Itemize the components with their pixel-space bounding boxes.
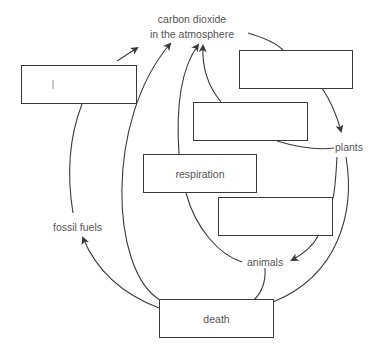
- box-left-blank[interactable]: [21, 65, 137, 104]
- carbon-cycle-diagram: carbon dioxide in the atmosphere respira…: [0, 0, 385, 358]
- box-respiration-text: respiration: [175, 168, 224, 180]
- box-middle-blank[interactable]: [193, 102, 308, 141]
- arrow-top-right-box-to-plants: [322, 88, 341, 131]
- fossil-fuels-label: fossil fuels: [53, 220, 102, 235]
- box-right-middle-blank[interactable]: [218, 197, 333, 236]
- arrow-right-box-to-animals: [292, 236, 318, 260]
- co2-label-line1: carbon dioxide: [140, 12, 244, 27]
- co2-label: carbon dioxide in the atmosphere: [140, 12, 244, 42]
- animals-label: animals: [247, 255, 283, 270]
- plants-label: plants: [335, 140, 363, 155]
- arrow-death-to-fossil-fuels: [83, 238, 159, 308]
- line-animals-to-death: [254, 268, 265, 300]
- co2-label-line2: in the atmosphere: [140, 27, 244, 42]
- box-respiration: respiration: [143, 154, 257, 193]
- faint-pencil-mark: [52, 80, 54, 89]
- box-death: death: [159, 299, 274, 338]
- arrow-left-box-to-co2: [117, 48, 137, 61]
- box-death-text: death: [203, 313, 229, 325]
- line-middle-box-to-plants: [277, 141, 334, 149]
- box-top-right-blank[interactable]: [239, 50, 353, 89]
- line-fossil-fuels-to-left-box: [70, 104, 82, 213]
- line-plants-to-right-box: [333, 157, 337, 198]
- line-co2-to-top-right-box: [248, 33, 283, 50]
- arrow-middle-box-to-co2: [203, 46, 221, 102]
